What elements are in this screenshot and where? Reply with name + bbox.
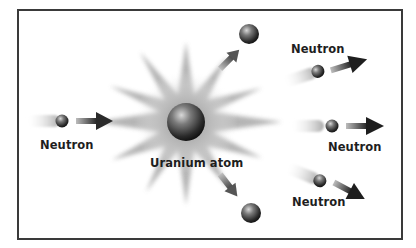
fragment-up-icon xyxy=(239,24,259,44)
outgoing-neutron-label-2: Neutron xyxy=(328,140,382,154)
outgoing-arrow-right-icon xyxy=(346,117,384,135)
uranium-nucleus-icon xyxy=(167,103,205,141)
outgoing-neutron-right-icon xyxy=(290,120,339,133)
uranium-atom-label: Uranium atom xyxy=(150,156,243,170)
outgoing-neutron-label-3: Neutron xyxy=(292,195,346,209)
fission-illustration xyxy=(0,0,416,248)
incoming-neutron-icon xyxy=(26,115,69,128)
incoming-neutron-label: Neutron xyxy=(40,138,94,152)
outgoing-neutron-down-right-icon xyxy=(284,161,328,189)
outgoing-neutron-up-right-icon xyxy=(282,63,326,88)
fragment-down-icon xyxy=(241,203,261,223)
incoming-arrow-icon xyxy=(76,112,113,130)
outgoing-neutron-label-1: Neutron xyxy=(291,42,345,56)
